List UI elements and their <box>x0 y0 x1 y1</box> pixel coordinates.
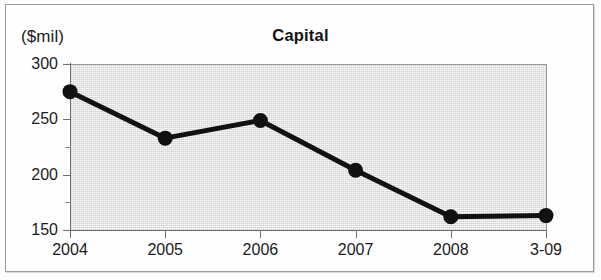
y-tick-300 <box>63 64 71 65</box>
x-tick-label-2006: 2006 <box>220 241 300 259</box>
chart-title: Capital <box>0 26 601 45</box>
x-tick-2006 <box>260 230 261 238</box>
y-tick-minor-225 <box>65 147 71 148</box>
x-tick-2007 <box>356 230 357 238</box>
x-axis-line <box>70 230 547 231</box>
y-tick-250 <box>63 119 71 120</box>
x-tick-2008 <box>451 230 452 238</box>
x-tick-2005 <box>165 230 166 238</box>
x-tick-label-2005: 2005 <box>125 241 205 259</box>
x-tick-2004 <box>70 230 71 238</box>
y-tick-label-150: 150 <box>12 221 58 239</box>
plot-area <box>70 64 547 231</box>
x-tick-label-3-09: 3-09 <box>506 241 586 259</box>
y-tick-minor-175 <box>65 202 71 203</box>
y-tick-minor-275 <box>65 92 71 93</box>
x-tick-label-2008: 2008 <box>411 241 491 259</box>
x-tick-label-2004: 2004 <box>30 241 110 259</box>
y-tick-200 <box>63 175 71 176</box>
y-tick-label-200: 200 <box>12 166 58 184</box>
y-tick-label-250: 250 <box>12 110 58 128</box>
chart-screenshot: ($mil) Capital 150200250300 200420052006… <box>0 0 601 280</box>
x-tick-label-2007: 2007 <box>316 241 396 259</box>
x-tick-3-09 <box>546 230 547 238</box>
y-tick-label-300: 300 <box>12 55 58 73</box>
